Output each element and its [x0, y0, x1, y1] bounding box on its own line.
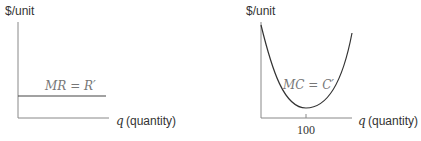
- mc-curve-label: MC = C′: [282, 78, 334, 92]
- mr-curve-label: MR = R′: [44, 79, 96, 93]
- mc-x-axis-var: q: [358, 114, 366, 128]
- mc-y-axis-label: $/unit: [246, 4, 276, 18]
- diagram-canvas: $/unit MR = R′ q (quantity) $/unit MC = …: [0, 0, 421, 141]
- mc-curve: [261, 25, 352, 108]
- mc-panel: $/unit MC = C′ 100 q (quantity): [246, 4, 418, 137]
- mc-x-tick-label: 100: [297, 123, 315, 137]
- mr-x-axis-var: q: [116, 114, 124, 128]
- mr-panel: $/unit MR = R′ q (quantity): [5, 4, 176, 128]
- mc-x-axis-label: (quantity): [368, 114, 418, 128]
- mr-y-axis-label: $/unit: [5, 4, 35, 18]
- mr-x-axis-label: (quantity): [126, 114, 176, 128]
